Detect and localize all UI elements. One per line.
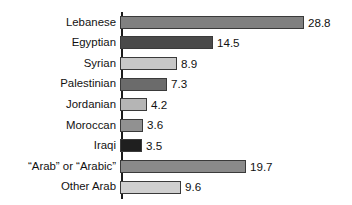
bar-row: Palestinian7.3: [0, 74, 352, 95]
bar-value-label: 28.8: [308, 17, 331, 29]
bar-row: “Arab” or “Arabic”19.7: [0, 156, 352, 177]
bar-row: Lebanese28.8: [0, 12, 352, 33]
bar: [120, 98, 147, 111]
bar-rows-container: Lebanese28.8Egyptian14.5Syrian8.9Palesti…: [0, 12, 352, 197]
bar-row: Moroccan3.6: [0, 115, 352, 136]
bar-value-label: 19.7: [250, 161, 273, 173]
bar: [120, 181, 181, 194]
bar-row: Iraqi3.5: [0, 136, 352, 157]
bar-row: Jordanian4.2: [0, 94, 352, 115]
bar-row: Other Arab9.6: [0, 177, 352, 198]
bar-track: 4.2: [120, 94, 352, 115]
category-label: “Arab” or “Arabic”: [0, 161, 120, 172]
bar-chart: Lebanese28.8Egyptian14.5Syrian8.9Palesti…: [0, 0, 352, 205]
category-label: Moroccan: [0, 120, 120, 131]
bar: [120, 16, 304, 29]
bar-value-label: 3.5: [146, 140, 162, 152]
category-label: Jordanian: [0, 99, 120, 110]
bar-track: 9.6: [120, 177, 352, 198]
bar-track: 8.9: [120, 53, 352, 74]
bar-track: 3.5: [120, 136, 352, 157]
bar-track: 28.8: [120, 12, 352, 33]
bar: [120, 57, 177, 70]
bar-value-label: 9.6: [185, 181, 201, 193]
bar: [120, 78, 167, 91]
bar-value-label: 4.2: [151, 99, 167, 111]
category-label: Egyptian: [0, 37, 120, 48]
bar-value-label: 3.6: [147, 119, 163, 131]
bar-track: 3.6: [120, 115, 352, 136]
category-label: Other Arab: [0, 181, 120, 192]
bar: [120, 160, 246, 173]
bar-value-label: 8.9: [181, 58, 197, 70]
bar-track: 7.3: [120, 74, 352, 95]
bar-track: 14.5: [120, 33, 352, 54]
bar-row: Egyptian14.5: [0, 33, 352, 54]
category-label: Syrian: [0, 58, 120, 69]
bar-value-label: 14.5: [217, 37, 240, 49]
category-label: Lebanese: [0, 17, 120, 28]
bar: [120, 36, 213, 49]
bar-value-label: 7.3: [171, 78, 187, 90]
bar-track: 19.7: [120, 156, 352, 177]
bar: [120, 139, 142, 152]
category-label: Palestinian: [0, 78, 120, 89]
category-label: Iraqi: [0, 140, 120, 151]
bar: [120, 119, 143, 132]
bar-row: Syrian8.9: [0, 53, 352, 74]
